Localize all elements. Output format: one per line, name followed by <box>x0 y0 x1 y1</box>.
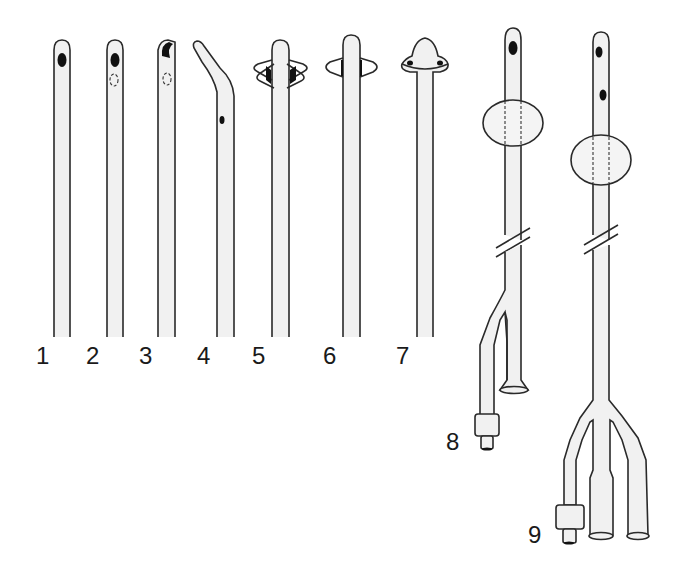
catheter-2 <box>107 40 123 337</box>
label-7: 7 <box>396 344 409 368</box>
catheter-9 <box>556 32 649 545</box>
label-1: 1 <box>36 344 49 368</box>
label-2: 2 <box>86 344 99 368</box>
catheter-3 <box>158 40 175 337</box>
catheter-7 <box>402 38 448 337</box>
catheter-6 <box>326 35 377 337</box>
label-6: 6 <box>323 344 336 368</box>
catheter-diagram <box>0 0 675 563</box>
catheter-4 <box>193 41 234 337</box>
label-3: 3 <box>139 344 152 368</box>
catheter-5 <box>254 40 307 337</box>
label-9: 9 <box>528 523 541 547</box>
label-5: 5 <box>252 344 265 368</box>
catheter-8 <box>475 28 543 451</box>
label-8: 8 <box>446 430 459 454</box>
catheter-1 <box>54 40 70 337</box>
label-4: 4 <box>197 344 210 368</box>
